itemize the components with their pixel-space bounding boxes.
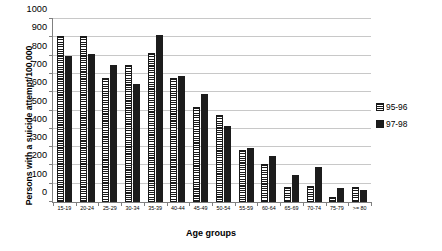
gridline [53, 18, 371, 19]
legend-swatch-icon [376, 120, 384, 128]
bar [329, 197, 336, 202]
x-axis-title: Age groups [52, 228, 370, 238]
bar [65, 56, 72, 202]
bar [247, 148, 254, 202]
bar [239, 150, 246, 202]
bar [360, 190, 367, 202]
bar-group [125, 19, 140, 202]
y-axis-tick-label: 0 [13, 187, 47, 197]
y-axis-tick-label: 800 [13, 41, 47, 51]
bar [178, 76, 185, 202]
bar [80, 36, 87, 202]
y-axis-tick-label: 400 [13, 114, 47, 124]
y-axis-tick-label: 500 [13, 96, 47, 106]
bar [216, 115, 223, 202]
bar-group [329, 19, 344, 202]
gridline [53, 183, 371, 184]
chart-screenshot: Persons with a suicide attempt/100,000 0… [0, 0, 442, 251]
plot-area: 01002003004005006007008009001000 15-1920… [52, 19, 371, 203]
y-axis-title-container: Persons with a suicide attempt/100,000 [2, 0, 22, 251]
bar-group [284, 19, 299, 202]
bar [133, 84, 140, 202]
legend-item: 95-96 [376, 100, 438, 114]
gridline [53, 146, 371, 147]
y-axis-tick [49, 183, 53, 184]
y-axis-tick [49, 55, 53, 56]
bar [337, 188, 344, 202]
bar [102, 78, 109, 202]
y-axis-tick [49, 128, 53, 129]
bar [315, 167, 322, 202]
chart-legend: 95-9697-98 [376, 100, 438, 134]
y-axis-tick-label: 200 [13, 150, 47, 160]
y-axis-tick-label: 100 [13, 169, 47, 179]
y-axis-tick [49, 91, 53, 92]
gridline [53, 55, 371, 56]
bar [352, 187, 359, 202]
bar [148, 53, 155, 202]
legend-item-label: 95-96 [386, 102, 407, 112]
bar-group [307, 19, 322, 202]
bar [224, 126, 231, 202]
bar-group [80, 19, 95, 202]
y-axis-tick [49, 73, 53, 74]
y-axis-tick-label: 600 [13, 77, 47, 87]
bar-group [148, 19, 163, 202]
bar [88, 54, 95, 202]
bar [261, 164, 268, 202]
bar [156, 35, 163, 202]
legend-item-label: 97-98 [386, 119, 407, 129]
bar [110, 65, 117, 202]
legend-item: 97-98 [376, 117, 438, 131]
bar [284, 187, 291, 202]
bar [269, 156, 276, 202]
gridline [53, 91, 371, 92]
x-axis-tick-label: >= 80 [346, 205, 374, 211]
gridline [53, 164, 371, 165]
bar [307, 186, 314, 202]
gridline [53, 73, 371, 74]
y-axis-tick-label: 700 [13, 59, 47, 69]
bar-group [261, 19, 276, 202]
x-axis-tick [371, 202, 372, 206]
y-axis-tick [49, 110, 53, 111]
bar [57, 36, 64, 202]
legend-swatch-icon [376, 103, 384, 111]
bar-group [170, 19, 185, 202]
y-axis-tick [49, 146, 53, 147]
bar [125, 65, 132, 202]
bar-group [239, 19, 254, 202]
bar-group [216, 19, 231, 202]
y-axis-tick [49, 164, 53, 165]
gridline [53, 128, 371, 129]
bar [170, 78, 177, 202]
gridline [53, 36, 371, 37]
bar [201, 94, 208, 202]
y-axis-tick-label: 900 [13, 22, 47, 32]
y-axis-tick-label: 1000 [13, 4, 47, 14]
bar-group [352, 19, 367, 202]
bar-group [102, 19, 117, 202]
gridline [53, 110, 371, 111]
y-axis-tick-label: 300 [13, 132, 47, 142]
y-axis-tick [49, 18, 53, 19]
bar-group [57, 19, 72, 202]
bar [193, 107, 200, 202]
y-axis-title: Persons with a suicide attempt/100,000 [20, 0, 38, 251]
bar-group [193, 19, 208, 202]
y-axis-tick [49, 36, 53, 37]
bar [292, 175, 299, 202]
